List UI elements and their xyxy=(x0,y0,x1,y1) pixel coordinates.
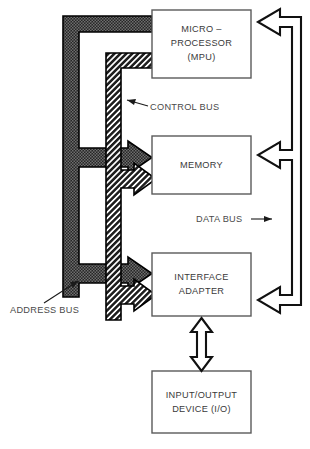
io-device-box xyxy=(152,371,251,433)
io-bidirectional-arrow xyxy=(191,318,212,371)
io-device-label-line2: DEVICE (I/O) xyxy=(172,404,231,414)
control-bus-leader xyxy=(127,99,148,106)
microprocessor-label-line2: PROCESSOR xyxy=(171,38,232,48)
block-diagram: MICRO – PROCESSOR (MPU) MEMORY INTERFACE… xyxy=(0,0,310,449)
interface-adapter-label-line1: INTERFACE xyxy=(174,272,228,282)
interface-adapter-label-line2: ADAPTER xyxy=(179,286,225,296)
data-bus-label: DATA BUS xyxy=(196,214,242,224)
microprocessor-label-line1: MICRO – xyxy=(181,24,222,34)
address-bus-label: ADDRESS BUS xyxy=(10,305,79,315)
interface-adapter-box xyxy=(152,253,251,316)
memory-label: MEMORY xyxy=(180,160,223,170)
data-bus-shape xyxy=(258,9,301,313)
io-device-label-line1: INPUT/OUTPUT xyxy=(166,390,238,400)
data-bus-leader xyxy=(251,216,272,222)
control-bus-label: CONTROL BUS xyxy=(150,102,219,112)
microprocessor-label-line3: (MPU) xyxy=(187,52,215,62)
diagram-canvas: MICRO – PROCESSOR (MPU) MEMORY INTERFACE… xyxy=(0,0,310,449)
